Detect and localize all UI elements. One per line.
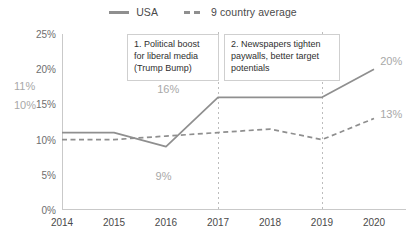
data-label-usa-2017: 16% xyxy=(157,83,179,95)
data-label-avg-2014: 10% xyxy=(14,99,36,111)
line-solid-icon xyxy=(109,11,129,14)
y-tick-10: 10% xyxy=(36,134,56,145)
y-tick-25: 25% xyxy=(36,29,56,40)
legend-item-average[interactable]: 9 country average xyxy=(184,6,297,18)
x-tick-2017: 2017 xyxy=(207,217,229,228)
y-tick-15: 15% xyxy=(36,99,56,110)
legend-item-usa[interactable]: USA xyxy=(109,6,158,18)
x-tick-2015: 2015 xyxy=(103,217,125,228)
annotation-text-1: 1. Political boost for liberal media (Tr… xyxy=(134,39,200,73)
y-tick-0: 0% xyxy=(42,205,56,216)
annotation-text-2: 2. Newspapers tighten paywalls, better t… xyxy=(231,39,321,73)
series-line-usa xyxy=(62,69,374,146)
annotation-callout-2: 2. Newspapers tighten paywalls, better t… xyxy=(224,34,340,81)
series-line-average xyxy=(62,118,374,139)
chart-legend: USA 9 country average xyxy=(0,6,406,18)
x-tick-2020: 2020 xyxy=(363,217,385,228)
legend-label-usa: USA xyxy=(136,6,158,18)
x-tick-2019: 2019 xyxy=(311,217,333,228)
line-dashed-icon xyxy=(184,11,204,14)
y-tick-5: 5% xyxy=(42,169,56,180)
x-tick-2016: 2016 xyxy=(155,217,177,228)
x-tick-2014: 2014 xyxy=(51,217,73,228)
annotation-callout-1: 1. Political boost for liberal media (Tr… xyxy=(127,34,219,81)
x-tick-2018: 2018 xyxy=(259,217,281,228)
data-label-usa-2014: 11% xyxy=(14,80,35,92)
y-tick-20: 20% xyxy=(36,64,56,75)
data-label-usa-2020: 20% xyxy=(380,55,402,67)
data-label-avg-2020: 13% xyxy=(380,108,402,120)
chart-container: USA 9 country average 25% 20% 15% 10% 5%… xyxy=(0,0,406,242)
legend-label-average: 9 country average xyxy=(211,6,297,18)
data-label-usa-2016: 9% xyxy=(156,170,172,182)
